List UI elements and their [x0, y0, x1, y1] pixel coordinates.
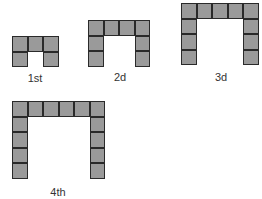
- figure-label: 3d: [215, 71, 227, 83]
- square: [28, 101, 44, 117]
- square: [43, 101, 59, 117]
- square: [88, 51, 104, 67]
- square: [88, 20, 104, 36]
- square: [135, 20, 151, 36]
- figure-label: 2d: [114, 71, 126, 83]
- square: [12, 148, 28, 164]
- square: [88, 36, 104, 52]
- square: [243, 19, 259, 35]
- square: [212, 3, 228, 19]
- square: [181, 3, 197, 19]
- square: [12, 132, 28, 148]
- square: [181, 19, 197, 35]
- square: [90, 101, 106, 117]
- square: [181, 50, 197, 66]
- square: [197, 3, 213, 19]
- square: [43, 36, 59, 52]
- square: [12, 101, 28, 117]
- square: [243, 3, 259, 19]
- square: [59, 101, 75, 117]
- square: [74, 101, 90, 117]
- square: [181, 34, 197, 50]
- square: [228, 3, 244, 19]
- square: [28, 36, 44, 52]
- square: [12, 52, 28, 68]
- figure-label: 4th: [50, 186, 65, 198]
- square: [243, 34, 259, 50]
- square: [12, 163, 28, 179]
- square: [43, 52, 59, 68]
- square: [12, 117, 28, 133]
- square: [135, 36, 151, 52]
- square: [90, 148, 106, 164]
- square: [90, 163, 106, 179]
- figure-label: 1st: [28, 72, 43, 84]
- square: [104, 20, 120, 36]
- square: [119, 20, 135, 36]
- square: [90, 117, 106, 133]
- square: [12, 36, 28, 52]
- square: [135, 51, 151, 67]
- square: [90, 132, 106, 148]
- square: [243, 50, 259, 66]
